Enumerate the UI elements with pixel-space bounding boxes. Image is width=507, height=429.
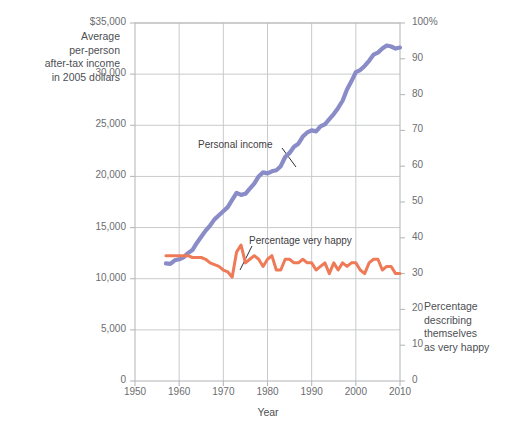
left-axis-title-line-1: Average <box>4 30 120 44</box>
y-tick-label-10000: 10,000 <box>58 272 126 283</box>
y2-tick-label-40: 40 <box>412 231 458 242</box>
y2-tick-label-50: 50 <box>412 195 458 206</box>
y2-tick-label-60: 60 <box>412 159 458 170</box>
y-tick-label-15000: 15,000 <box>58 221 126 232</box>
y-tick-label-20000: 20,000 <box>58 169 126 180</box>
series-label-personal-income: Personal income <box>198 139 272 150</box>
x-tick-label-1950: 1950 <box>111 386 159 397</box>
gridlines <box>135 23 400 381</box>
y2-tick-label-80: 80 <box>412 88 458 99</box>
y-tick-label-5000: 5,000 <box>58 323 126 334</box>
x-tick-label-2000: 2000 <box>332 386 380 397</box>
y-tick-label-30000: 30,000 <box>58 67 126 78</box>
series-label-percentage-very-happy: Percentage very happy <box>249 235 352 246</box>
x-tick-label-1980: 1980 <box>244 386 292 397</box>
y-tick-label-0: 0 <box>58 374 126 385</box>
y-tick-label-35000: $35,000 <box>58 16 126 27</box>
y2-tick-label-10: 10 <box>412 338 458 349</box>
line-percentage-very-happy <box>166 245 400 277</box>
y2-tick-label-0: 0 <box>412 374 458 385</box>
x-axis-title: Year <box>135 406 401 418</box>
x-tick-label-2010: 2010 <box>376 386 424 397</box>
y-tick-label-25000: 25,000 <box>58 118 126 129</box>
chart-figure: Average per-person after-tax income in 2… <box>0 0 507 429</box>
x-tick-label-1990: 1990 <box>288 386 336 397</box>
x-tick-label-1960: 1960 <box>155 386 203 397</box>
y2-tick-label-30: 30 <box>412 267 458 278</box>
y2-tick-label-70: 70 <box>412 123 458 134</box>
left-axis-title-line-2: per-person <box>4 44 120 58</box>
right-axis-title-line-2: describing <box>424 314 506 328</box>
y2-tick-label-100: 100% <box>412 16 458 27</box>
y2-tick-label-20: 20 <box>412 302 458 313</box>
x-tick-label-1970: 1970 <box>199 386 247 397</box>
line-personal-income <box>166 46 400 264</box>
y2-tick-label-90: 90 <box>412 52 458 63</box>
